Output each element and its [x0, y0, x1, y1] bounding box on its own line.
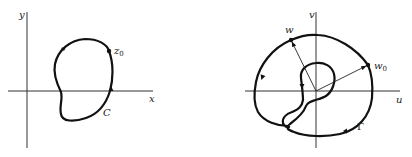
point-z0: [107, 49, 111, 53]
u-axis-label: u: [396, 94, 402, 105]
left-diagram: y x z0 C: [8, 9, 155, 148]
z0-label: z0: [113, 45, 124, 58]
x-axis-label: x: [149, 93, 155, 104]
figure: y x z0 C v u w w0 Γ: [0, 0, 412, 157]
y-axis-label: y: [18, 9, 25, 20]
direction-arrow-icon: [109, 86, 114, 91]
direction-arrow-icon: [300, 84, 305, 89]
point-w: [289, 38, 293, 42]
w0-label: w0: [374, 60, 387, 73]
curve-c-label: C: [103, 107, 111, 118]
ray-to-w0: [316, 66, 366, 91]
v-axis-label: v: [309, 9, 315, 20]
w-label: w: [285, 24, 294, 35]
curve-gamma-label: Γ: [357, 121, 364, 132]
point-w0: [366, 63, 370, 67]
ray-to-w: [292, 42, 316, 91]
direction-arrow-icon: [259, 74, 265, 80]
right-diagram: v u w w0 Γ: [245, 9, 402, 148]
